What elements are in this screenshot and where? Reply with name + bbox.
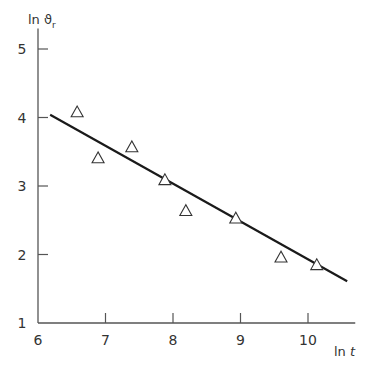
data-markers (71, 106, 323, 270)
regression-line (50, 115, 347, 281)
axes: 67891012345 (18, 28, 356, 348)
x-axis-title: ln t (334, 344, 356, 359)
triangle-marker-icon (126, 141, 138, 152)
x-tick-label: 7 (101, 332, 110, 348)
triangle-marker-icon (311, 259, 323, 270)
triangle-marker-icon (92, 152, 104, 163)
triangle-marker-icon (159, 174, 171, 185)
y-axis-title: ln ϑr (28, 12, 56, 30)
triangle-marker-icon (71, 106, 83, 117)
y-tick-label: 5 (18, 41, 27, 57)
chart: 67891012345 ln ϑr ln t (0, 0, 369, 367)
y-tick-label: 2 (18, 247, 27, 263)
triangle-marker-icon (275, 251, 287, 262)
fit-line (50, 115, 347, 281)
y-tick-label: 3 (18, 178, 27, 194)
x-tick-label: 9 (236, 332, 245, 348)
x-tick-label: 8 (169, 332, 178, 348)
x-tick-label: 6 (34, 332, 43, 348)
x-tick-label: 10 (299, 332, 317, 348)
triangle-marker-icon (180, 205, 192, 216)
y-tick-label: 1 (18, 315, 27, 331)
y-tick-label: 4 (18, 110, 27, 126)
